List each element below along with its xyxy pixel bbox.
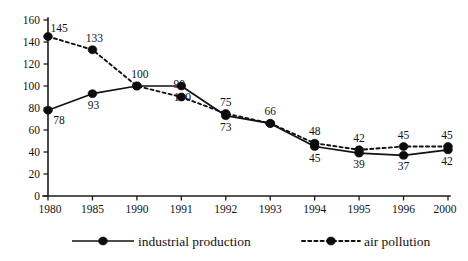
y-tick-label: 80 [29,102,41,114]
legend-swatch-marker [327,237,336,245]
series-lines [48,37,448,156]
data-point-label: 100 [131,68,149,80]
x-tick-label: 1994 [303,203,326,215]
data-point-label: 45 [441,129,453,141]
data-point-label: 48 [309,125,321,137]
x-tick-label: 1985 [81,203,104,215]
data-point-label: 75 [220,96,232,108]
x-tick-label: 1991 [170,203,193,215]
data-point-label: 73 [220,121,232,133]
y-tick-label: 0 [34,190,40,202]
legend-label: industrial production [138,234,251,249]
data-point-label: 100 [174,91,192,103]
data-point-label: 93 [88,99,100,111]
series-line-industrial-production [48,86,448,155]
data-point-label: 66 [264,105,276,117]
x-tick-label: 1996 [392,203,415,215]
data-point-label: 45 [398,129,410,141]
data-point-marker [399,151,408,159]
x-tick-label: 1990 [125,203,148,215]
data-point-marker [266,119,275,127]
data-point-marker [310,139,319,147]
line-chart: 020406080100120140160 198019851990199119… [0,0,468,261]
x-tick-label: 2000 [434,203,457,215]
data-point-marker [44,106,53,114]
data-point-labels: 7893100734539374214513310090756648424545 [50,22,453,173]
data-point-marker [221,110,230,118]
y-tick-label: 160 [23,14,41,26]
data-point-marker [444,143,453,151]
data-point-marker [88,46,97,54]
data-point-label: 42 [353,132,365,144]
y-tick-label: 20 [29,168,41,180]
x-tick-label: 1992 [214,203,237,215]
x-axis: 1980198519901991199219931994199519962000 [39,196,457,215]
y-tick-label: 40 [29,146,41,158]
data-point-label: 42 [441,155,453,167]
x-tick-label: 1993 [259,203,282,215]
data-point-marker [88,90,97,98]
data-point-label: 90 [174,78,186,90]
legend-swatch-marker [99,237,108,245]
chart-canvas: 020406080100120140160 198019851990199119… [0,0,468,261]
data-point-label: 145 [50,22,68,34]
series-line-air-pollution [48,37,448,150]
x-tick-label: 1995 [348,203,371,215]
data-point-marker [355,146,364,154]
y-tick-label: 120 [23,58,41,70]
x-tick-label: 1980 [39,203,62,215]
y-tick-label: 140 [23,36,41,48]
data-point-marker [399,143,408,151]
data-point-label: 78 [53,114,65,126]
data-point-label: 45 [309,152,321,164]
data-point-markers [44,33,453,160]
data-point-marker [44,33,53,41]
y-tick-label: 100 [23,80,41,92]
data-point-label: 39 [353,158,365,170]
data-point-label: 133 [86,32,104,44]
data-point-marker [132,82,141,90]
data-point-label: 37 [398,160,410,172]
y-tick-label: 60 [29,124,41,136]
legend-label: air pollution [364,234,431,249]
chart-legend: industrial productionair pollution [72,234,431,249]
